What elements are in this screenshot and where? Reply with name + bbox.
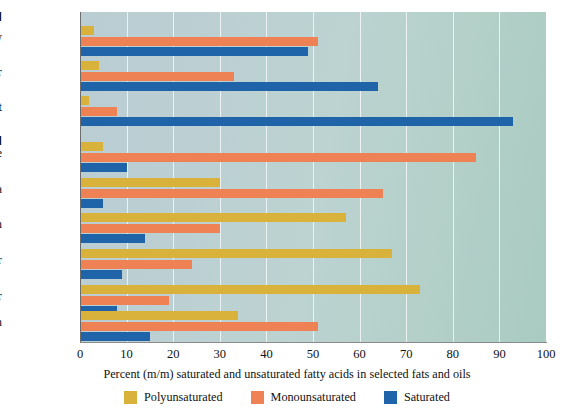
x-tick-label: 70	[400, 347, 413, 362]
x-tick-label: 60	[353, 347, 366, 362]
category-label-canola: Canola	[0, 182, 2, 197]
legend-label: Saturated	[404, 390, 450, 405]
category-label-beef-tallow: Beef tallow	[0, 30, 2, 45]
category-label-soybean: Soybean	[0, 217, 2, 232]
x-tick-label: 30	[214, 347, 227, 362]
group-heading-solid: Solid	[0, 10, 2, 24]
legend-item-polyunsaturated: Polyunsaturated	[124, 390, 223, 405]
chart-legend: PolyunsaturatedMonounsaturatedSaturated	[0, 390, 574, 405]
legend-item-saturated: Saturated	[384, 390, 450, 405]
category-label-corn: Corn	[0, 315, 2, 330]
legend-swatch-icon	[384, 391, 397, 404]
category-label-sunflower: Sunflower	[0, 253, 2, 268]
x-tick-label: 100	[537, 347, 556, 362]
x-tick-label: 50	[307, 347, 320, 362]
legend-swatch-icon	[124, 391, 137, 404]
fatty-acid-bar-chart: SolidLiquidBeef tallowButterCoconutOlive…	[0, 0, 574, 420]
x-tick-label: 40	[260, 347, 273, 362]
category-label-coconut: Coconut	[0, 100, 2, 115]
x-axis-label: Percent (m/m) saturated and unsaturated …	[0, 367, 574, 382]
legend-label: Polyunsaturated	[144, 390, 223, 405]
category-label-safflower: Safflower	[0, 289, 2, 304]
legend-label: Monounsaturated	[271, 390, 356, 405]
x-tick-label: 0	[77, 347, 83, 362]
x-tick-label: 10	[120, 347, 133, 362]
x-tick-label: 90	[493, 347, 506, 362]
x-tick-label: 20	[167, 347, 180, 362]
category-label-olive: Olive	[0, 146, 2, 161]
category-label-butter: Butter	[0, 65, 2, 80]
legend-item-monounsaturated: Monounsaturated	[251, 390, 356, 405]
x-tick-label: 80	[447, 347, 460, 362]
legend-swatch-icon	[251, 391, 264, 404]
category-labels: SolidLiquidBeef tallowButterCoconutOlive…	[0, 0, 574, 420]
